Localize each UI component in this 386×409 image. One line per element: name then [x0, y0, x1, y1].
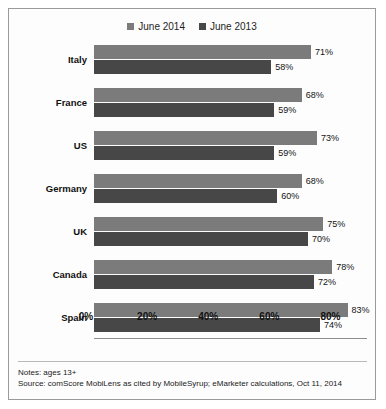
category-row: US73%59%: [17, 125, 367, 168]
legend-entry-june-2014: June 2014: [127, 21, 185, 32]
bar-value-label: 70%: [312, 234, 330, 244]
bar-group-june-2013: 70%: [94, 232, 330, 246]
bar: [94, 275, 314, 289]
bar-group-june-2014: 75%: [94, 217, 345, 231]
chart-container: June 2014 June 2013 Italy71%58%France68%…: [8, 8, 376, 400]
bar-group-june-2013: 59%: [94, 146, 296, 160]
legend-swatch-june-2014: [127, 23, 134, 30]
bar-value-label: 60%: [281, 191, 299, 201]
bar: [94, 131, 317, 145]
category-bars: 68%60%: [94, 168, 367, 211]
category-bars: 71%58%: [94, 39, 367, 82]
category-label-canada: Canada: [17, 269, 87, 280]
bar-group-june-2013: 58%: [94, 60, 293, 74]
bar-group-june-2014: 78%: [94, 260, 354, 274]
bar: [94, 146, 274, 160]
bar-group-june-2014: 73%: [94, 131, 339, 145]
chart-legend: June 2014 June 2013: [9, 21, 375, 32]
bar: [94, 217, 323, 231]
legend-label-june-2014: June 2014: [138, 21, 185, 32]
bar-group-june-2013: 60%: [94, 189, 299, 203]
bar-group-june-2014: 71%: [94, 45, 333, 59]
bar: [94, 60, 271, 74]
category-row: Italy71%58%: [17, 39, 367, 82]
bar-value-label: 68%: [306, 176, 324, 186]
bar-value-label: 58%: [275, 62, 293, 72]
category-row: Canada78%72%: [17, 253, 367, 296]
category-label-france: France: [17, 97, 87, 108]
bar-value-label: 73%: [321, 133, 339, 143]
category-bars: 75%70%: [94, 210, 367, 253]
x-tick-40pct: 40%: [198, 311, 218, 323]
category-label-italy: Italy: [17, 54, 87, 65]
chart-footer: Notes: ages 13+ Source: comScore MobiLen…: [18, 361, 367, 389]
bars-container: Italy71%58%France68%59%US73%59%Germany68…: [17, 39, 367, 339]
bar: [94, 45, 311, 59]
category-bars: 73%59%: [94, 125, 367, 168]
bar-group-june-2014: 68%: [94, 88, 324, 102]
legend-entry-june-2013: June 2013: [199, 21, 257, 32]
category-label-uk: UK: [17, 226, 87, 237]
category-label-germany: Germany: [17, 183, 87, 194]
bar-value-label: 59%: [278, 105, 296, 115]
x-axis-line: [94, 338, 367, 339]
bar-value-label: 68%: [306, 90, 324, 100]
category-bars: 78%72%: [94, 253, 367, 296]
x-tick-20pct: 20%: [137, 311, 157, 323]
category-row: Germany68%60%: [17, 168, 367, 211]
bar-value-label: 72%: [318, 277, 336, 287]
category-label-us: US: [17, 140, 87, 151]
bar: [94, 88, 302, 102]
category-row: France68%59%: [17, 82, 367, 125]
category-label-spain: Spain: [17, 312, 87, 323]
plot-area: Italy71%58%France68%59%US73%59%Germany68…: [17, 39, 367, 339]
category-bars: 68%59%: [94, 82, 367, 125]
legend-label-june-2013: June 2013: [210, 21, 257, 32]
bar: [94, 189, 277, 203]
category-row: UK75%70%: [17, 210, 367, 253]
bar-value-label: 78%: [336, 262, 354, 272]
bar-group-june-2013: 72%: [94, 275, 336, 289]
bar: [94, 174, 302, 188]
bar-value-label: 75%: [327, 219, 345, 229]
bar: [94, 260, 332, 274]
x-tick-60pct: 60%: [259, 311, 279, 323]
x-tick-80pct: 80%: [320, 311, 340, 323]
x-axis-ticks: 0%20%40%60%80%: [86, 311, 375, 327]
footer-source: Source: comScore MobiLens as cited by Mo…: [18, 378, 367, 389]
x-tick-0pct: 0%: [79, 311, 93, 323]
legend-swatch-june-2013: [199, 23, 206, 30]
footer-divider: [18, 361, 367, 362]
footer-notes: Notes: ages 13+: [18, 367, 367, 378]
bar-group-june-2013: 59%: [94, 103, 296, 117]
bar-value-label: 59%: [278, 148, 296, 158]
bar-value-label: 71%: [315, 47, 333, 57]
bar: [94, 103, 274, 117]
bar: [94, 232, 308, 246]
bar-group-june-2014: 68%: [94, 174, 324, 188]
